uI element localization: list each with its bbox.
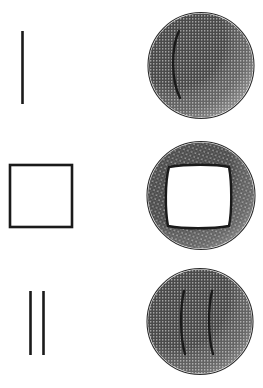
figure-canvas	[0, 0, 263, 388]
disc-interior-rounded-square	[166, 165, 231, 229]
square-outline	[10, 165, 72, 227]
figure-plate	[0, 0, 263, 388]
